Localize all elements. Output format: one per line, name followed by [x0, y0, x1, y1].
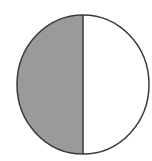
unshaded-right-half — [83, 15, 149, 154]
shaded-left-half — [17, 15, 83, 154]
fraction-circle-diagram — [0, 0, 152, 161]
